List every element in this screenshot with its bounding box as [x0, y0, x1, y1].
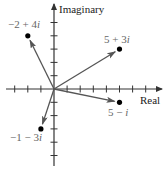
point-label-5-minus-i: 5 − i [108, 106, 128, 118]
vector-arrow [54, 89, 115, 101]
complex-plane-diagram: Imaginary Real −2 + 4i 5 + 3i 5 − i −1 −… [0, 0, 168, 172]
vector-arrow [30, 40, 54, 89]
point-dot [117, 100, 122, 105]
point-label-5-plus-3i: 5 + 3i [104, 33, 130, 45]
point-label-neg2-plus-4i: −2 + 4i [8, 18, 40, 30]
point-dot [117, 47, 122, 52]
point-label-neg1-minus-3i: −1 − 3i [10, 131, 42, 143]
real-axis-label: Real [140, 94, 160, 106]
vectors [30, 40, 115, 124]
vector-arrow [54, 52, 115, 89]
imaginary-axis-label: Imaginary [59, 3, 105, 15]
vector-arrow [42, 89, 54, 124]
point-dot [25, 33, 30, 38]
